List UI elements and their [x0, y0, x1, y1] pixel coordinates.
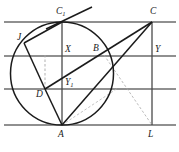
segment-D-A: [45, 89, 62, 125]
segment-A-C: [62, 22, 152, 125]
label-X: X: [65, 45, 71, 55]
label-C1: C1: [56, 7, 66, 17]
horizontal-lines-group: [4, 22, 176, 125]
label-Y1: Y1: [65, 78, 74, 88]
label-B: B: [93, 44, 99, 54]
tangent-at-C1: [46, 7, 92, 29]
label-D: D: [36, 90, 43, 100]
label-A: A: [58, 130, 64, 140]
label-J: J: [17, 33, 21, 43]
label-L: L: [148, 130, 153, 140]
label-C: C: [150, 7, 156, 17]
label-Y: Y: [155, 45, 160, 55]
segment-J-D: [24, 43, 45, 89]
solid-segments-group: [24, 7, 152, 125]
geometry-figure: C1 C J X B Y Y1 D A L: [0, 0, 179, 152]
